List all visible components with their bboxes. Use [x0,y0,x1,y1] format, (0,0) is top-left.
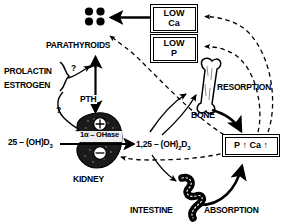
box-p-ca-elevated: P ↑ Ca ↑ [222,134,280,157]
label-1-25-oh2-d3: 1,25 – (OH)2D3 [135,140,191,151]
label-parathyroids: PARATHYROIDS [46,41,110,50]
label-resorption: RESORPTION [217,83,271,92]
box-low-p-line2: P [171,49,177,58]
label-25-oh-d3: 25 – (OH)D3 [8,138,53,149]
kidney-icon [77,113,122,168]
intestine-icon [182,178,202,218]
parathyroid-glands-icon [85,7,105,25]
label-25-oh-d3-main: 25 – (OH)D [8,137,49,147]
label-25-oh-d3-sub: 3 [49,143,52,149]
dashed-feedback-pca-to-kidney [121,150,236,160]
label-1-25-sub-b: 3 [187,145,190,151]
label-intestine: INTESTINE [130,206,173,215]
label-bone: BONE [191,111,215,120]
box-low-ca-line2: Ca [168,19,180,28]
arrow-vitd-to-intestine [152,155,176,181]
label-pth: PTH [79,95,97,104]
label-1-25-main-a: 1,25 – (OH) [136,139,178,149]
arrow-pth-to-bone [150,94,186,132]
box-p-ca-label: P ↑ Ca ↑ [234,141,268,150]
label-kidney: KIDNEY [73,175,104,184]
box-low-p: LOW P [150,34,198,63]
label-question-lower: ? [56,106,61,115]
arrow-resorption-to-pca [212,110,241,131]
arrow-absorption-to-pca [200,166,242,205]
label-question-upper: ? [71,64,76,73]
box-low-ca: LOW Ca [150,4,198,33]
diagram-graphics [0,0,285,224]
label-estrogen: ESTROGEN [4,81,50,90]
hormone-brace [60,62,69,91]
label-absorption: ABSORPTION [204,206,259,215]
label-1-alpha-ohase: 1α – OHase [80,131,119,139]
diagram-canvas: LOW Ca LOW P P ↑ Ca ↑ PARATHYROIDS KIDNE… [0,0,285,224]
label-prolactin: PROLACTIN [4,67,52,76]
